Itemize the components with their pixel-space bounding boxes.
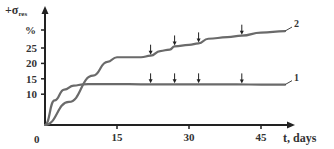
y-axis-title: +σres xyxy=(5,3,27,18)
event-markers xyxy=(149,25,244,84)
series-label-leader xyxy=(285,27,292,31)
y-tick-label: 20 xyxy=(26,57,38,69)
origin-label: 0 xyxy=(34,133,40,145)
series-2-label: 2 xyxy=(294,18,299,29)
y-unit-label: % xyxy=(25,24,36,36)
y-tick-label: 15 xyxy=(26,73,38,85)
down-arrow-icon xyxy=(197,38,201,42)
y-axis-title-sub: res xyxy=(18,10,27,18)
y-tick-label: 10 xyxy=(26,88,38,100)
y-axis-arrow-icon xyxy=(42,6,49,14)
down-arrow-icon xyxy=(240,31,244,35)
down-arrow-icon xyxy=(173,79,177,83)
y-axis-title-main: +σ xyxy=(5,3,19,17)
down-arrow-icon xyxy=(240,79,244,83)
x-tick-label: 45 xyxy=(256,131,268,143)
series-1-label: 1 xyxy=(294,72,299,83)
x-axis-arrow-icon xyxy=(287,122,295,129)
series-label-leader xyxy=(285,81,292,85)
series-labels: 12 xyxy=(285,18,299,85)
down-arrow-icon xyxy=(149,51,153,55)
axes xyxy=(42,6,296,129)
down-arrow-icon xyxy=(197,79,201,83)
y-tick-label: 25 xyxy=(26,42,38,54)
y-ticks: 10152025 xyxy=(26,30,45,100)
series-2-line xyxy=(45,31,285,125)
down-arrow-icon xyxy=(149,79,153,83)
chart: 10152025 153045 12 +σres % 0 t, days xyxy=(0,0,334,149)
series-lines xyxy=(45,31,285,125)
x-ticks: 153045 xyxy=(112,125,268,143)
x-tick-label: 15 xyxy=(112,131,124,143)
x-tick-label: 30 xyxy=(184,131,196,143)
x-axis-title: t, days xyxy=(283,131,317,145)
down-arrow-icon xyxy=(173,41,177,45)
